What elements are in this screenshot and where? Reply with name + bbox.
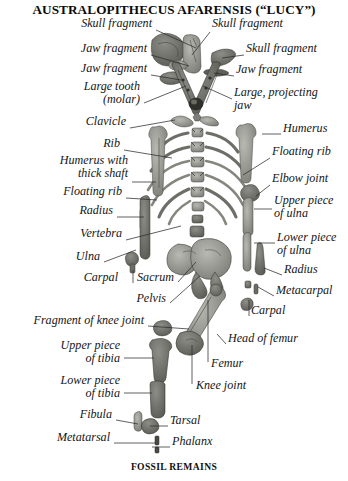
label-fibula: Fibula [80,408,112,421]
leader-jaw-fragment-1 [151,55,189,66]
label-upper-piece-of-ulna: Upper piece of ulna [274,194,333,219]
label-skull-fragment-1: Skull fragment [81,17,152,30]
label-vertebra: Vertebra [80,227,122,240]
label-clavicle: Clavicle [86,115,126,128]
label-radius-right: Radius [284,263,318,276]
leader-pelvis [170,276,200,303]
label-humerus-right: Humerus [283,122,327,135]
label-carpal-right: Carpal [251,304,285,317]
leader-floating-rib-left [126,198,157,200]
leader-skull-fragment-1 [156,30,196,48]
leader-head-of-femur [217,334,226,344]
label-femur: Femur [211,357,243,370]
label-humerus-thick-shaft: Humerus with thick shaft [60,154,128,179]
label-tarsal: Tarsal [170,414,200,427]
figure-caption: FOSSIL REMAINS [0,461,348,472]
label-fragment-of-knee-joint: Fragment of knee joint [34,314,145,327]
label-metacarpal: Metacarpal [276,284,332,297]
label-pelvis: Pelvis [136,292,166,305]
leader-jaw-fragment-2 [151,75,181,80]
label-ulna-left: Ulna [76,250,100,263]
leader-clavicle [130,120,175,128]
label-phalanx: Phalanx [172,435,212,448]
label-floating-rib-right: Floating rib [272,145,331,158]
label-lower-piece-of-tibia: Lower piece of tibia [61,374,120,399]
label-large-tooth-molar: Large tooth (molar) [84,80,140,105]
label-skull-fragment-3: Skull fragment [246,42,317,55]
label-head-of-femur: Head of femur [228,332,298,345]
label-floating-rib-left: Floating rib [63,185,122,198]
leader-elbow-joint [256,185,270,196]
label-jaw-fragment-1: Jaw fragment [81,42,147,55]
label-metatarsal: Metatarsal [57,431,110,444]
fossil-diagram: AUSTRALOPITHECUS AFARENSIS (“LUCY”) [0,0,348,481]
label-rib: Rib [103,137,120,150]
label-radius-left: Radius [79,204,113,217]
leader-floating-rib-right [243,158,270,175]
leader-large-projecting-jaw [203,86,232,99]
leader-large-tooth-molar [144,86,186,103]
leader-fragment-of-knee-joint [148,326,189,329]
leader-fibula [116,420,138,424]
leader-ulna-left [104,250,136,262]
label-skull-fragment-2: Skull fragment [212,17,283,30]
leader-skull-fragment-2 [192,32,210,55]
label-lower-piece-of-ulna: Lower piece of ulna [277,231,336,256]
label-carpal-left: Carpal [84,271,118,284]
label-elbow-joint: Elbow joint [272,172,328,185]
leader-sacrum [178,262,196,282]
label-knee-joint: Knee joint [196,379,246,392]
label-upper-piece-of-tibia: Upper piece of tibia [61,339,120,364]
label-large-projecting-jaw: Large, projecting jaw [234,86,318,111]
leader-skull-fragment-3 [222,55,244,58]
leader-jaw-fragment-3 [214,73,234,76]
leader-vertebra [126,226,181,240]
label-jaw-fragment-2: Jaw fragment [81,62,147,75]
leader-rib [124,150,172,158]
leader-metacarpal [258,287,274,296]
label-sacrum: Sacrum [137,271,174,284]
label-jaw-fragment-3: Jaw fragment [236,63,302,76]
leader-radius-right [264,268,282,275]
